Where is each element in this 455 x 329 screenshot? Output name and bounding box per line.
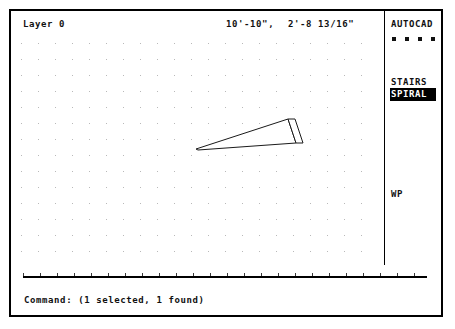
side-menu: AUTOCAD STAIRS SPIRAL WP xyxy=(384,11,442,265)
divider-line xyxy=(23,276,427,278)
side-menu-item-stairs[interactable]: STAIRS xyxy=(391,77,427,87)
command-line-area[interactable]: Command: (1 selected, 1 found) xyxy=(11,283,441,315)
side-menu-item-wp[interactable]: WP xyxy=(391,189,403,199)
command-line-text[interactable]: Command: (1 selected, 1 found) xyxy=(24,295,205,305)
coordinate-readout-x[interactable]: 10'-10", xyxy=(226,19,274,29)
side-menu-bullets xyxy=(392,36,438,44)
drawing-geometry xyxy=(11,33,384,265)
side-menu-bullet xyxy=(392,37,396,41)
side-menu-item-spiral[interactable]: SPIRAL xyxy=(390,88,436,101)
side-menu-bullet xyxy=(405,37,409,41)
side-menu-title[interactable]: AUTOCAD xyxy=(391,19,433,29)
status-divider xyxy=(11,265,441,283)
current-layer-label[interactable]: Layer 0 xyxy=(23,19,65,29)
coordinate-readout-y[interactable]: 2'-8 13/16" xyxy=(288,19,354,29)
stair-tread-shape[interactable] xyxy=(196,119,296,150)
status-bar: Layer 0 10'-10", 2'-8 13/16" xyxy=(11,11,441,33)
side-menu-bullet xyxy=(418,37,422,41)
drawing-canvas[interactable] xyxy=(11,33,384,265)
autocad-window: Layer 0 10'-10", 2'-8 13/16" AUTOCAD STA… xyxy=(9,9,443,317)
side-menu-bullet xyxy=(431,37,435,41)
